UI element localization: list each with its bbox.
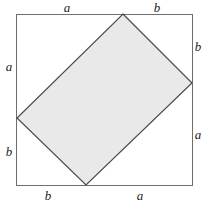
- label-bottom-left-b: b: [41, 189, 55, 202]
- label-bottom-right-a: a: [133, 189, 147, 202]
- geometry-figure: a b b a b a a b: [0, 0, 208, 204]
- label-right-bottom-a: a: [191, 128, 205, 141]
- label-left-bottom-b: b: [2, 145, 16, 158]
- label-top-left-a: a: [60, 1, 74, 14]
- label-left-top-a: a: [2, 60, 16, 73]
- figure-canvas: [0, 0, 208, 204]
- label-right-top-b: b: [191, 40, 205, 53]
- label-top-right-b: b: [150, 1, 164, 14]
- inscribed-rectangle-shape: [17, 14, 192, 185]
